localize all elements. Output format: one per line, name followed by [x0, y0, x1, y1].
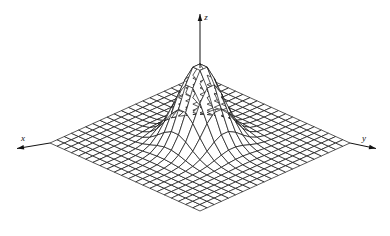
x-axis-label: x	[20, 133, 25, 143]
surface-plot-figure: x y z	[0, 0, 390, 236]
y-axis-label: y	[361, 133, 366, 143]
z-axis-label: z	[203, 12, 208, 22]
surface-plot-canvas: x y z	[0, 0, 390, 236]
